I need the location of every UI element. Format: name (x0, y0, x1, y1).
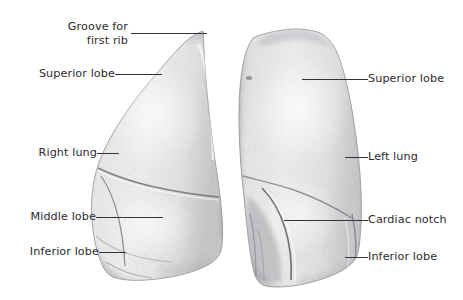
leader-left-lung (345, 157, 368, 158)
leader-superior-lobe-left-lung (302, 79, 368, 80)
label-inferior-lobe-left-lung: Inferior lobe (368, 250, 437, 264)
leader-middle-lobe (96, 217, 163, 218)
label-right-lung: Right lung (18, 146, 97, 160)
leader-inferior-lobe-left-lung (345, 257, 368, 258)
label-groove-line1: Groove for (68, 20, 128, 33)
label-inferior-lobe-right-lung: Inferior lobe (18, 245, 99, 259)
lung-anatomy-figure: Groove for first rib Superior lobe Right… (0, 0, 463, 300)
label-groove-for-first-rib: Groove for first rib (18, 20, 128, 47)
leader-superior-lobe-right-lung (115, 74, 162, 75)
label-superior-lobe-left-lung: Superior lobe (368, 72, 444, 86)
leader-cardiac-notch (284, 220, 368, 221)
label-cardiac-notch: Cardiac notch (368, 213, 447, 227)
leader-inferior-lobe-right-lung (99, 252, 126, 253)
label-middle-lobe: Middle lobe (18, 210, 96, 224)
leader-right-lung (97, 153, 119, 154)
label-groove-line2: first rib (87, 34, 128, 47)
right-lung-organ (85, 25, 235, 290)
label-superior-lobe-right-lung: Superior lobe (18, 67, 115, 81)
leader-groove-for-first-rib (131, 33, 207, 34)
label-left-lung: Left lung (368, 150, 418, 164)
